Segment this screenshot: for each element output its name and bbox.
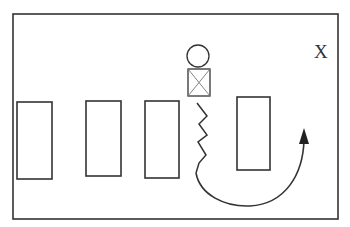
arrowhead-icon bbox=[299, 128, 309, 144]
diagram-canvas: X bbox=[0, 0, 350, 227]
block-2 bbox=[86, 101, 121, 176]
block-4 bbox=[237, 97, 270, 170]
frame-border bbox=[13, 14, 338, 219]
figure-head bbox=[187, 45, 209, 67]
block-3 bbox=[145, 101, 179, 178]
curved-arrow-path bbox=[196, 140, 304, 206]
person-figure bbox=[187, 45, 210, 96]
target-label-x: X bbox=[314, 41, 328, 62]
block-1 bbox=[17, 102, 52, 179]
zigzag-path bbox=[196, 103, 207, 173]
